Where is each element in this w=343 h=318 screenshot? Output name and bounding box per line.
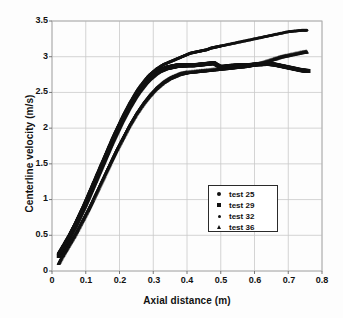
y-tick-label: 3 [18,51,48,61]
x-tick-label: 0.6 [240,275,270,285]
legend-item: test 25 [209,189,277,199]
x-tick-label: 0.7 [274,275,304,285]
dot-marker-icon [209,215,229,218]
legend-item-label: test 32 [229,212,254,221]
y-tick-label: 0 [18,265,48,275]
plot-canvas [0,0,343,318]
x-tick-label: 0.1 [71,275,101,285]
y-tick-label: 3.5 [18,15,48,25]
series-test-36 [57,49,309,265]
x-tick-label: 0.3 [139,275,169,285]
legend-item-label: test 36 [229,223,254,232]
legend-item-label: test 25 [229,190,254,199]
legend-item: test 29 [209,200,277,210]
x-tick-label: 0.2 [105,275,135,285]
square-marker-icon [209,203,229,208]
x-tick-label: 0.8 [307,275,337,285]
legend-item: test 32 [209,211,277,221]
x-tick-label: 0.4 [172,275,202,285]
triangle-marker-icon [209,225,229,229]
chart-container: 3.5 3 2.5 2 1.5 1 0.5 0 0 0.1 0.2 0.3 0.… [0,0,343,318]
chart-legend: test 25 test 29 test 32 test 36 [208,185,278,232]
circle-marker-icon [209,192,229,196]
legend-item: test 36 [209,222,277,232]
y-axis-title: Centerline velocity (m/s) [24,69,35,239]
x-tick-label: 0.5 [206,275,236,285]
x-axis-title: Axial distance (m) [52,295,322,306]
x-tick-label: 0 [37,275,67,285]
legend-item-label: test 29 [229,201,254,210]
